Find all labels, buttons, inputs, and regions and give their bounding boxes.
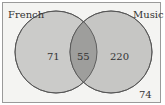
french-only-count: 71 (47, 51, 60, 62)
outside-count: 74 (139, 89, 152, 100)
french-label: French (8, 9, 45, 20)
venn-diagram: French Music 71 55 220 74 (0, 0, 165, 105)
music-only-count: 220 (110, 51, 129, 62)
music-label: Music (133, 9, 164, 20)
intersection-count: 55 (77, 51, 90, 62)
